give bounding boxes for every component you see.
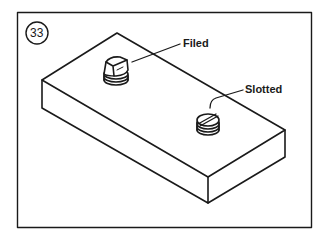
slotted-label: Slotted [245, 84, 282, 95]
block-top-face [42, 33, 285, 177]
slotted-screw [197, 114, 219, 135]
slotted-leader-line [210, 90, 243, 108]
filed-label: Filed [183, 38, 209, 49]
block-left-face [42, 80, 208, 203]
figure-number: 33 [30, 27, 43, 39]
filed-screw [104, 57, 128, 85]
figure-panel: 33 Filed Slotted [0, 0, 328, 238]
block-illustration [0, 0, 328, 238]
block-right-face [208, 130, 285, 203]
